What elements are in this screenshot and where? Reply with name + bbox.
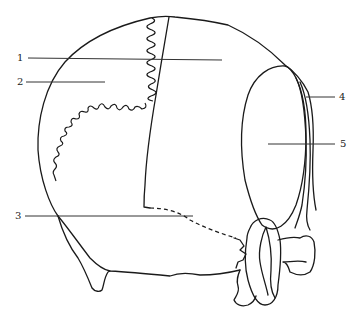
ear-structure [245, 218, 281, 305]
left-lower-edge [58, 216, 240, 276]
label-4: 4 [339, 92, 345, 102]
serrated-suture [53, 18, 156, 181]
skull-diagram: 1 2 3 4 5 [0, 0, 357, 323]
lower-fragment [234, 270, 256, 306]
ear-inner [259, 227, 275, 298]
leader-line-1 [28, 58, 222, 60]
dashed-suture [150, 208, 236, 238]
skull-drawing [0, 0, 357, 323]
oval-structure [242, 66, 306, 229]
label-5: 5 [340, 139, 346, 149]
left-mastoid-outline [58, 216, 110, 291]
label-3: 3 [15, 211, 21, 221]
right-edge-inner [295, 78, 306, 228]
right-lower-process [278, 236, 315, 275]
lower-teeth-edge [234, 238, 246, 268]
label-2: 2 [17, 77, 23, 87]
midline [144, 17, 169, 208]
label-1: 1 [17, 53, 23, 63]
